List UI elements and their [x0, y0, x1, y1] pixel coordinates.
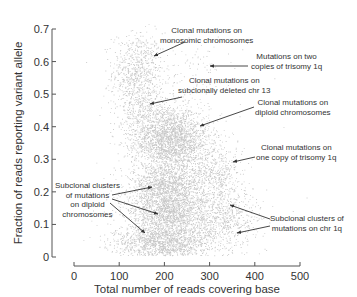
x-tick-label: 400: [246, 270, 264, 282]
x-tick-label: 300: [200, 270, 218, 282]
annotation-chr13: Clonal mutations on subclonally deleted …: [178, 76, 271, 96]
annotation-diploid: Clonal mutations on diploid chromosomes: [255, 98, 331, 118]
annotation-monosomic: Clonal mutations on monosomic chromosome…: [160, 26, 253, 46]
y-tick-label: 0.2: [34, 186, 49, 198]
y-tick-label: 0.6: [34, 56, 49, 68]
y-tick-label: 0: [43, 251, 49, 263]
y-tick-label: 0.5: [34, 88, 49, 100]
x-tick-label: 100: [110, 270, 128, 282]
annotation-subclonal-diploid: Subclonal clusters of mutations on diplo…: [55, 181, 120, 219]
annotation-subclonal-1q: Subclonal clusters of mutations on chr 1…: [270, 214, 344, 234]
annotation-arrow: [233, 157, 255, 162]
annotation-trisomy-two-copies: Mutations on two copies of trisomy 1q: [251, 52, 322, 72]
y-tick-label: 0.3: [34, 153, 49, 165]
y-tick-label: 0.7: [34, 23, 49, 35]
annotation-trisomy-one-copy: Clonal mutations on one copy of trisomy …: [256, 143, 336, 163]
x-tick-label: 200: [155, 270, 173, 282]
y-tick-label: 0.4: [34, 121, 49, 133]
y-axis-title: Fraction of reads reporting variant alle…: [12, 42, 24, 245]
x-tick-label: 500: [291, 270, 309, 282]
x-tick-label: 0: [71, 270, 77, 282]
y-tick-label: 0.1: [34, 218, 49, 230]
annotation-arrow: [230, 205, 270, 219]
annotation-arrow: [200, 107, 254, 126]
x-axis-title: Total number of reads covering base: [94, 283, 280, 295]
